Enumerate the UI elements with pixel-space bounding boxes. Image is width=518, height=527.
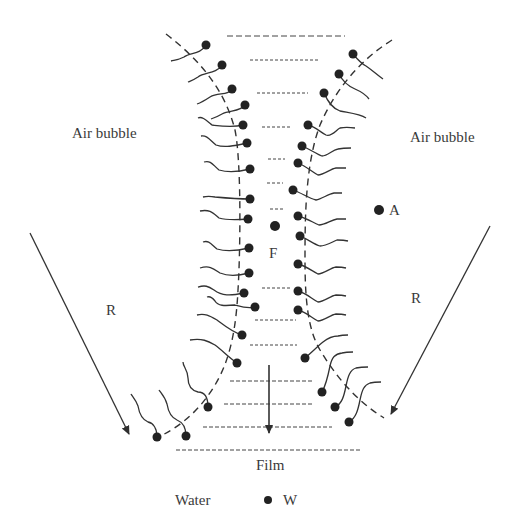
reflection-arrow-right bbox=[391, 226, 490, 414]
diagram-canvas: F A Air bubble Air bubble R R Film Water… bbox=[0, 0, 518, 527]
reflection-right-label: R bbox=[411, 290, 421, 306]
right-interface-dashed bbox=[305, 40, 392, 418]
point-a-dot bbox=[374, 205, 384, 215]
air-bubble-right-label: Air bubble bbox=[410, 129, 475, 145]
left-surfactants bbox=[131, 45, 255, 437]
point-f-dot bbox=[270, 221, 280, 231]
point-f-label: F bbox=[269, 245, 277, 261]
foam-film-diagram: F A Air bubble Air bubble R R Film Water… bbox=[0, 0, 518, 527]
point-a-label: A bbox=[389, 202, 400, 218]
point-w-label: W bbox=[283, 492, 298, 508]
film-layer-lines bbox=[176, 36, 360, 450]
reflection-arrow-left bbox=[30, 233, 129, 434]
water-label: Water bbox=[175, 492, 210, 508]
right-surfactants bbox=[293, 54, 383, 422]
film-label: Film bbox=[256, 457, 285, 473]
reflection-left-label: R bbox=[106, 302, 116, 318]
air-bubble-left-label: Air bubble bbox=[72, 125, 137, 141]
right-surfactant-heads bbox=[289, 50, 358, 427]
point-w-dot bbox=[264, 496, 272, 504]
left-interface-dashed bbox=[152, 34, 240, 440]
